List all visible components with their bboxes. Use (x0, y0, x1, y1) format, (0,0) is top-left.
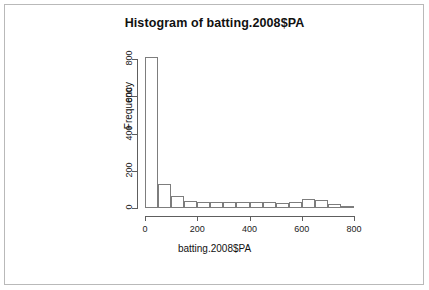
x-axis-tick (354, 216, 355, 221)
histogram-bar (315, 200, 328, 208)
histogram-bar (341, 206, 354, 208)
histogram-bar (223, 202, 236, 208)
x-axis-title: batting.2008$PA (0, 243, 429, 254)
histogram-bar (276, 203, 289, 208)
histogram-bar (236, 202, 249, 208)
x-axis-tick (302, 216, 303, 221)
x-axis-tick (145, 216, 146, 221)
x-axis-tick (250, 216, 251, 221)
x-axis-tick-label: 200 (177, 224, 217, 234)
histogram-bar (302, 199, 315, 208)
chart-frame: Histogram of batting.2008$PA 02004006008… (0, 0, 429, 290)
histogram-bar (197, 202, 210, 208)
histogram-bar (145, 57, 158, 208)
histogram-bar (210, 202, 223, 208)
histogram-bar (328, 204, 341, 208)
histogram-bar (250, 202, 263, 208)
x-axis-tick-label: 800 (334, 224, 374, 234)
histogram-bar (171, 196, 184, 208)
histogram-bar (289, 202, 302, 208)
y-axis-tick-label: 200 (124, 153, 134, 187)
x-axis-tick (197, 216, 198, 221)
x-axis-tick-label: 600 (282, 224, 322, 234)
x-axis-tick-label: 0 (125, 224, 165, 234)
histogram-bar (184, 201, 197, 208)
y-axis-title: Frequency (123, 66, 134, 146)
histogram-bar (263, 202, 276, 208)
x-axis-tick-label: 400 (230, 224, 270, 234)
histogram-bar (158, 184, 171, 208)
histogram-bars (145, 56, 354, 208)
plot-area: 0200400600800 Frequency 0200400600800 ba… (0, 0, 429, 290)
y-axis-line (137, 59, 138, 209)
y-axis-tick-label: 0 (124, 190, 134, 224)
